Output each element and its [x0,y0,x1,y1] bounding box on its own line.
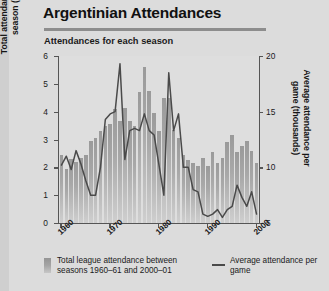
chart-subtitle: Attendances for each season [44,36,173,46]
left-axis-tick-label: 1 [32,190,48,200]
right-axis-tick [259,56,263,57]
legend-line-label: Average attendance per game [230,256,329,277]
page-title: Argentinian Attendances [43,4,221,22]
legend-line-swatch [212,264,225,266]
left-axis-tick-label: 3 [32,135,48,145]
right-axis-tick-label: 10 [266,162,284,172]
left-axis-tick [54,56,58,57]
plot-area [58,56,260,224]
chart-page: Argentinian Attendances Attendances for … [0,0,329,291]
right-axis-tick [259,112,263,113]
left-axis-tick-label: 0 [32,218,48,228]
right-axis-tick [259,167,263,168]
legend-bar-label: Total league attendance between seasons … [57,256,197,277]
right-axis-tick-label: 20 [266,51,284,61]
right-axis-tick-label: 15 [266,107,284,117]
right-axis-title: Average attendance per game (thousands) [291,58,312,178]
left-axis-tick [54,195,58,196]
left-axis-title: Total attendances for each season (milli… [0,0,20,60]
line-series [59,56,259,223]
left-axis-tick-label: 5 [32,79,48,89]
chart-legend: Total league attendance between seasons … [44,256,319,284]
left-axis-tick-label: 6 [32,51,48,61]
left-axis-tick [54,223,58,224]
left-axis-tick-label: 4 [32,107,48,117]
legend-bar-swatch [44,258,51,273]
left-axis-tick-label: 2 [32,162,48,172]
left-axis-tick [54,84,58,85]
left-axis-tick [54,167,58,168]
left-axis-tick [54,112,58,113]
title-divider [44,28,266,31]
left-axis-tick [54,140,58,141]
